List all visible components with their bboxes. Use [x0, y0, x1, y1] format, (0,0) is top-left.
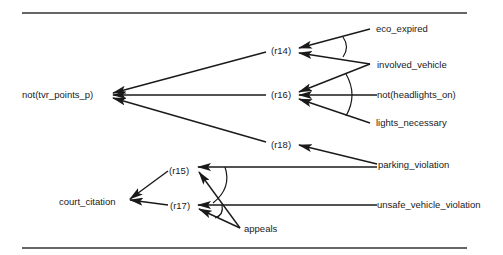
conjunction-arc-r14 [343, 37, 347, 57]
inference-diagram: not(tvr_points_p) court_citation (r14) (… [0, 0, 503, 255]
edge-r14-to-not-tvr-points-p [113, 52, 266, 93]
edge-lights-necessary-to-r16 [299, 99, 370, 123]
edge-appeals-to-r15 [199, 172, 240, 228]
edge-r17-to-court-citation [130, 200, 168, 205]
node-appeals: appeals [244, 223, 278, 234]
node-unsafe-vehicle-violation: unsafe_vehicle_violation [377, 199, 481, 210]
node-parking-violation: parking_violation [378, 159, 449, 170]
node-r16: (r16) [271, 89, 291, 100]
node-eco-expired: eco_expired [376, 23, 428, 34]
node-r18: (r18) [271, 139, 291, 150]
edge-parking-violation-to-r18 [299, 145, 377, 164]
edge-involved-vehicle-to-r14 [299, 53, 370, 64]
node-r14: (r14) [271, 45, 291, 56]
edge-r15-to-court-citation [130, 171, 168, 199]
edge-eco-expired-to-r14 [299, 29, 370, 48]
node-court-citation: court_citation [59, 196, 116, 207]
edge-r18-to-not-tvr-points-p [113, 98, 266, 142]
node-r17: (r17) [170, 200, 190, 211]
node-lights-necessary: lights_necessary [376, 117, 447, 128]
conjunction-arc-r15 [213, 167, 227, 203]
node-not-tvr-points-p: not(tvr_points_p) [22, 89, 93, 100]
conjunction-arc-r17 [215, 205, 222, 218]
node-not-headlights-on: not(headlights_on) [377, 89, 456, 100]
edge-involved-vehicle-to-r16 [299, 64, 370, 92]
node-involved-vehicle: involved_vehicle [377, 59, 447, 70]
node-r15: (r15) [169, 165, 189, 176]
